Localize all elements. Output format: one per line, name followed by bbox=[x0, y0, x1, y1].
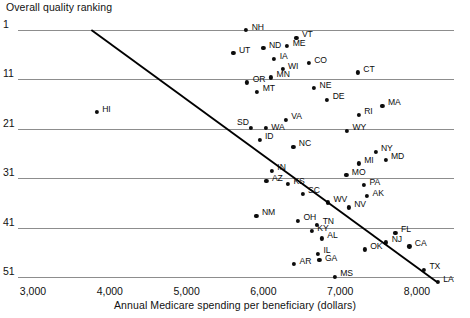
scatter-chart: Overall quality ranking 111213141513,000… bbox=[0, 0, 470, 318]
trendline-overlay bbox=[0, 0, 470, 318]
trend-line bbox=[91, 30, 437, 282]
x-axis-title: Annual Medicare spending per beneficiary… bbox=[0, 299, 470, 311]
